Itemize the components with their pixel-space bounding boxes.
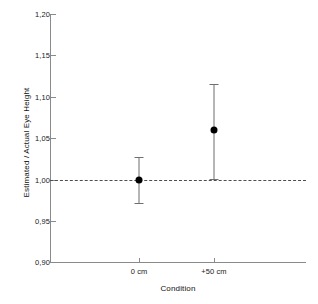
error-bar-cap-upper xyxy=(210,84,219,85)
x-axis-title: Condition xyxy=(50,284,306,293)
y-axis-tick-label: 1,15 xyxy=(35,51,50,60)
y-axis-tick-label: 1,00 xyxy=(35,176,50,185)
x-axis-line xyxy=(50,262,306,263)
error-bar-cap-upper xyxy=(135,157,144,158)
y-axis-tick-label: 0,90 xyxy=(35,258,50,267)
x-axis-tick-label: +50 cm xyxy=(201,267,226,276)
y-axis-tick-label: 1,10 xyxy=(35,93,50,102)
y-axis-tick xyxy=(51,55,56,56)
y-axis-tick xyxy=(51,138,56,139)
data-point-marker xyxy=(211,127,218,134)
error-bar-cap-lower xyxy=(210,179,219,180)
y-axis-tick xyxy=(51,14,56,15)
y-axis-tick-label: 1,20 xyxy=(35,10,50,19)
y-axis-title: Estimated / Actual Eye Height xyxy=(22,63,31,223)
error-bar-cap-lower xyxy=(135,203,144,204)
reference-line-unity xyxy=(50,180,306,181)
x-axis-tick xyxy=(139,258,140,262)
x-axis-tick-label: 0 cm xyxy=(131,267,148,276)
data-point-marker xyxy=(136,177,143,184)
y-axis-tick-label: 1,05 xyxy=(35,134,50,143)
y-axis-tick xyxy=(51,97,56,98)
x-axis-tick xyxy=(214,258,215,262)
y-axis-tick-label: 0,95 xyxy=(35,217,50,226)
y-axis-tick xyxy=(51,262,56,263)
chart-figure: 1,20 1,15 1,10 1,05 1,00 0,95 0,90 0 cm … xyxy=(0,0,318,304)
y-axis-tick xyxy=(51,221,56,222)
